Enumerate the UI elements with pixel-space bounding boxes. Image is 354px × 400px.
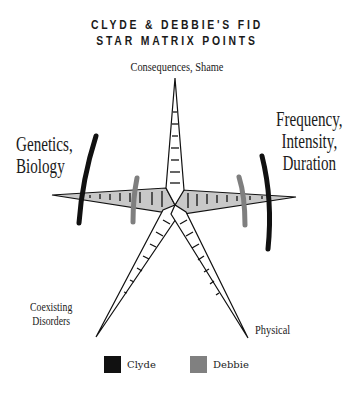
star-arm-right — [175, 190, 296, 214]
legend-item-clyde: Clyde — [104, 356, 156, 373]
star-arm-bottom-left — [96, 205, 180, 337]
clyde-marker-left — [79, 136, 96, 223]
legend-item-debbie: Debbie — [190, 356, 249, 373]
legend-swatch-clyde — [104, 356, 121, 373]
legend-label-debbie: Debbie — [213, 359, 249, 370]
debbie-marker-left — [133, 178, 137, 222]
star-arm-top — [166, 78, 184, 205]
star-arm-left — [52, 188, 175, 213]
star-matrix — [0, 0, 354, 400]
legend-label-clyde: Clyde — [127, 359, 156, 370]
legend-swatch-debbie — [190, 356, 207, 373]
star-arm-bottom-right — [171, 205, 248, 338]
